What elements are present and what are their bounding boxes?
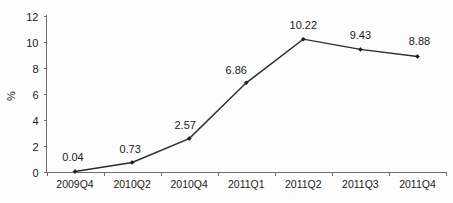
data-point-label: 0.04 xyxy=(62,151,83,163)
data-point-label: 6.86 xyxy=(226,64,247,76)
data-point-marker xyxy=(415,55,419,59)
x-tick-label: 2011Q3 xyxy=(342,178,379,190)
data-point-label: 10.22 xyxy=(290,19,318,31)
x-tick-label: 2009Q4 xyxy=(56,178,94,190)
x-tick-label: 2011Q1 xyxy=(228,178,265,190)
x-tick-labels: 2009Q42010Q22010Q42011Q12011Q22011Q32011… xyxy=(56,178,436,190)
chart-canvas: 024681012 2009Q42010Q22010Q42011Q12011Q2… xyxy=(0,0,453,203)
x-tick-label: 2010Q4 xyxy=(170,178,208,190)
axis-group xyxy=(47,15,447,173)
data-point-label: 8.88 xyxy=(409,35,430,47)
data-point-marker xyxy=(130,161,134,165)
y-tick-label: 12 xyxy=(26,11,38,23)
data-point-label: 9.43 xyxy=(350,29,371,41)
y-tick-label: 4 xyxy=(32,115,38,127)
y-tick-label: 0 xyxy=(32,167,38,179)
data-point-label: 0.73 xyxy=(119,143,140,155)
y-axis-title-group: % xyxy=(5,91,17,101)
y-tick-label: 6 xyxy=(32,89,38,101)
y-tick-label: 10 xyxy=(26,37,38,49)
x-tick-label: 2011Q4 xyxy=(399,178,436,190)
x-tick-label: 2010Q2 xyxy=(113,178,151,190)
data-point-marker xyxy=(358,47,362,51)
y-tick-label: 8 xyxy=(32,63,38,75)
line-chart-figure: 024681012 2009Q42010Q22010Q42011Q12011Q2… xyxy=(0,0,453,203)
data-point-labels: 0.040.732.576.8610.229.438.88 xyxy=(62,19,430,163)
x-tick-label: 2011Q2 xyxy=(285,178,322,190)
y-axis-title: % xyxy=(5,91,17,101)
y-tick-labels: 024681012 xyxy=(26,11,38,179)
y-tick-label: 2 xyxy=(32,141,38,153)
data-point-label: 2.57 xyxy=(174,119,195,131)
